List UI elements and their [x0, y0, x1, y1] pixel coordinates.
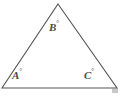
angle-label-c: C° — [84, 69, 94, 81]
angle-label-a: A° — [12, 69, 22, 81]
degree-symbol-a: ° — [19, 67, 22, 75]
triangle-figure: A° B° C° — [0, 0, 120, 100]
angle-label-b: B° — [49, 21, 59, 33]
triangle-shape — [0, 0, 120, 100]
degree-symbol-c: ° — [91, 67, 94, 75]
corner-artifact — [112, 88, 118, 93]
degree-symbol-b: ° — [56, 19, 59, 27]
